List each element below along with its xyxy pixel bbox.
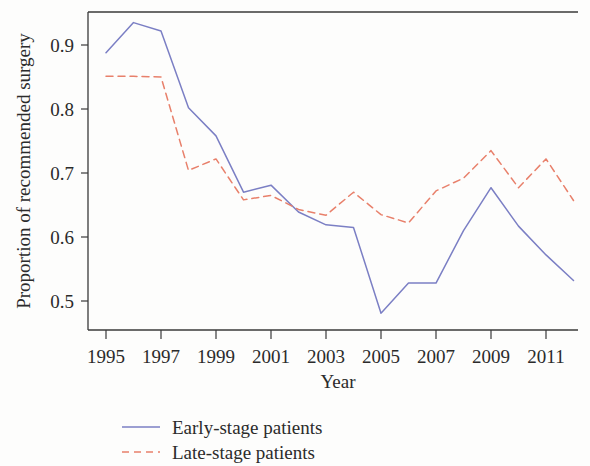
- legend-label-early-stage: Early-stage patients: [172, 417, 322, 438]
- plot-frame: [88, 12, 578, 330]
- chart-legend: Early-stage patientsLate-stage patients: [122, 417, 322, 463]
- x-axis-title: Year: [320, 371, 356, 392]
- x-tick-label: 2007: [417, 346, 455, 367]
- y-tick-label: 0.5: [50, 291, 74, 312]
- x-tick-label: 1999: [197, 346, 235, 367]
- y-axis-title: Proportion of recommended surgery: [13, 33, 34, 309]
- y-axis-ticks: 0.50.60.70.80.9: [50, 35, 88, 312]
- y-tick-label: 0.8: [50, 99, 74, 120]
- series-line-early-stage: [106, 23, 574, 314]
- x-tick-label: 1997: [142, 346, 180, 367]
- data-series-group: [106, 23, 574, 314]
- x-tick-label: 1995: [87, 346, 125, 367]
- x-tick-label: 2011: [527, 346, 564, 367]
- y-tick-label: 0.6: [50, 227, 74, 248]
- series-line-late-stage: [106, 76, 574, 223]
- legend-label-late-stage: Late-stage patients: [172, 442, 315, 463]
- x-tick-label: 2003: [307, 346, 345, 367]
- x-tick-label: 2009: [472, 346, 510, 367]
- x-axis-ticks: 199519971999200120032005200720092011: [87, 330, 565, 367]
- x-tick-label: 2005: [362, 346, 400, 367]
- line-chart-svg: 0.50.60.70.80.9 199519971999200120032005…: [0, 0, 590, 466]
- y-tick-label: 0.9: [50, 35, 74, 56]
- chart-figure: 0.50.60.70.80.9 199519971999200120032005…: [0, 0, 590, 466]
- y-tick-label: 0.7: [50, 163, 74, 184]
- x-tick-label: 2001: [252, 346, 290, 367]
